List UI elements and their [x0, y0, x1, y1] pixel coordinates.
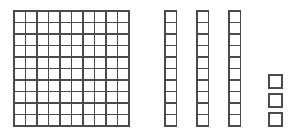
hundreds-flat-cell[interactable] [14, 115, 26, 127]
ten-rod-cell[interactable] [229, 11, 241, 23]
hundreds-flat-cell[interactable] [72, 34, 84, 46]
hundreds-flat-cell[interactable] [83, 115, 95, 127]
hundreds-flat-cell[interactable] [106, 103, 118, 115]
hundreds-flat-cell[interactable] [60, 115, 72, 127]
hundreds-flat-cell[interactable] [26, 69, 38, 81]
hundreds-flat-cell[interactable] [49, 69, 61, 81]
ten-rod-cell[interactable] [197, 34, 209, 46]
ten-rod-cell[interactable] [229, 69, 241, 81]
hundreds-flat-cell[interactable] [37, 115, 49, 127]
ones-cubes-group[interactable] [269, 75, 282, 126]
hundreds-flat-cell[interactable] [26, 23, 38, 35]
hundreds-flat-cell[interactable] [26, 92, 38, 104]
unit-cube[interactable] [269, 75, 282, 88]
ten-rod-cell[interactable] [197, 92, 209, 104]
hundreds-flat-cell[interactable] [60, 92, 72, 104]
hundreds-flat-cell[interactable] [14, 23, 26, 35]
hundreds-flat-cell[interactable] [49, 46, 61, 58]
hundreds-flat-cell[interactable] [49, 115, 61, 127]
hundreds-flat-cell[interactable] [106, 23, 118, 35]
ten-rod-cell[interactable] [197, 23, 209, 35]
hundreds-flat-cell[interactable] [26, 11, 38, 23]
ten-rod-cell[interactable] [197, 103, 209, 115]
hundreds-flat-cell[interactable] [95, 103, 107, 115]
hundreds-flat-cell[interactable] [118, 23, 130, 35]
hundreds-flat-cell[interactable] [60, 69, 72, 81]
hundreds-flat-cell[interactable] [118, 103, 130, 115]
hundreds-flat-cell[interactable] [72, 115, 84, 127]
hundreds-flat-cell[interactable] [95, 80, 107, 92]
hundreds-flat-cell[interactable] [26, 46, 38, 58]
hundreds-flat-cell[interactable] [72, 92, 84, 104]
hundreds-flat-cell[interactable] [83, 23, 95, 35]
hundreds-flat-cell[interactable] [83, 11, 95, 23]
hundreds-flat-cell[interactable] [106, 46, 118, 58]
hundreds-flat-cell[interactable] [106, 69, 118, 81]
hundreds-flat-cell[interactable] [72, 103, 84, 115]
hundreds-flat-cell[interactable] [49, 23, 61, 35]
hundreds-flat-cell[interactable] [37, 34, 49, 46]
hundreds-flat-cell[interactable] [60, 34, 72, 46]
hundreds-flat-cell[interactable] [37, 103, 49, 115]
hundreds-flat-cell[interactable] [26, 57, 38, 69]
ten-rod-cell[interactable] [165, 34, 177, 46]
ten-rod-cell[interactable] [165, 92, 177, 104]
unit-cube[interactable] [269, 113, 282, 126]
hundreds-flat-cell[interactable] [72, 46, 84, 58]
hundreds-flat-cell[interactable] [26, 80, 38, 92]
hundreds-flat-cell[interactable] [14, 92, 26, 104]
hundreds-flat-cell[interactable] [37, 11, 49, 23]
hundreds-flat-cell[interactable] [26, 34, 38, 46]
hundreds-flat-cell[interactable] [95, 92, 107, 104]
hundreds-flat-cell[interactable] [37, 69, 49, 81]
hundreds-flat-cell[interactable] [83, 57, 95, 69]
hundreds-flat-cell[interactable] [14, 34, 26, 46]
ten-rod-cell[interactable] [165, 69, 177, 81]
ten-rod-cell[interactable] [165, 46, 177, 58]
hundreds-flat-group[interactable] [14, 11, 129, 126]
hundreds-flat-cell[interactable] [106, 11, 118, 23]
ten-rod-cell[interactable] [197, 11, 209, 23]
hundreds-flat-cell[interactable] [37, 57, 49, 69]
hundreds-flat-cell[interactable] [95, 69, 107, 81]
tens-rods-group[interactable] [165, 11, 241, 126]
hundreds-flat-cell[interactable] [60, 11, 72, 23]
hundreds-flat-cell[interactable] [49, 80, 61, 92]
hundreds-flat-cell[interactable] [106, 80, 118, 92]
ten-rod-cell[interactable] [197, 69, 209, 81]
hundreds-flat-cell[interactable] [14, 103, 26, 115]
ten-rod-cell[interactable] [197, 46, 209, 58]
hundreds-flat-cell[interactable] [106, 115, 118, 127]
ten-rod-cell[interactable] [229, 57, 241, 69]
hundreds-flat-cell[interactable] [95, 115, 107, 127]
hundreds-flat-cell[interactable] [118, 92, 130, 104]
ten-rod-cell[interactable] [229, 103, 241, 115]
hundreds-flat-cell[interactable] [106, 92, 118, 104]
ten-rod-cell[interactable] [165, 115, 177, 127]
ten-rod-cell[interactable] [165, 23, 177, 35]
hundreds-flat-cell[interactable] [14, 46, 26, 58]
hundreds-flat-cell[interactable] [95, 34, 107, 46]
hundreds-flat-cell[interactable] [37, 23, 49, 35]
hundreds-flat-cell[interactable] [14, 57, 26, 69]
hundreds-flat-cell[interactable] [49, 103, 61, 115]
hundreds-flat-cell[interactable] [14, 80, 26, 92]
hundreds-flat-cell[interactable] [49, 92, 61, 104]
hundreds-flat-cell[interactable] [60, 23, 72, 35]
ten-rod-cell[interactable] [165, 80, 177, 92]
hundreds-flat-cell[interactable] [83, 34, 95, 46]
hundreds-flat-cell[interactable] [72, 57, 84, 69]
hundreds-flat-cell[interactable] [60, 57, 72, 69]
ten-rod-cell[interactable] [229, 23, 241, 35]
hundreds-flat-cell[interactable] [37, 80, 49, 92]
hundreds-flat-cell[interactable] [118, 11, 130, 23]
ten-rod-cell[interactable] [229, 92, 241, 104]
hundreds-flat-cell[interactable] [118, 46, 130, 58]
hundreds-flat-cell[interactable] [83, 69, 95, 81]
hundreds-flat-cell[interactable] [72, 80, 84, 92]
hundreds-flat-cell[interactable] [72, 23, 84, 35]
unit-cube[interactable] [269, 94, 282, 107]
hundreds-flat-cell[interactable] [49, 34, 61, 46]
hundreds-flat-cell[interactable] [72, 69, 84, 81]
hundreds-flat-cell[interactable] [118, 115, 130, 127]
